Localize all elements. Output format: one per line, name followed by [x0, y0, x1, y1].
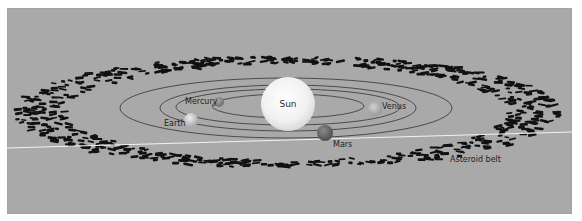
asteroid [119, 71, 126, 73]
asteroid [111, 69, 116, 72]
asteroid-belt-label: Asteroid belt [450, 155, 501, 164]
asteroid [508, 102, 512, 105]
asteroid [61, 80, 65, 83]
asteroid [15, 111, 23, 115]
asteroid [87, 140, 94, 143]
asteroid [409, 71, 415, 74]
asteroid [505, 87, 510, 89]
asteroid [131, 147, 135, 150]
asteroid [286, 165, 292, 167]
planet-mercury: Mercury [185, 97, 224, 107]
asteroid [328, 59, 333, 62]
asteroid [504, 136, 509, 138]
asteroid [456, 69, 461, 72]
asteroid [51, 82, 57, 84]
asteroid [430, 147, 439, 149]
asteroid [82, 137, 89, 140]
asteroid [28, 126, 36, 129]
asteroid [237, 62, 243, 65]
asteroid [509, 100, 516, 102]
asteroid [435, 74, 443, 77]
asteroid [57, 86, 66, 88]
asteroid [392, 59, 396, 62]
asteroid [34, 96, 39, 98]
asteroid [338, 158, 345, 160]
planet-earth: Earth [164, 113, 198, 128]
asteroid [546, 119, 554, 123]
asteroid [59, 88, 67, 91]
asteroid [506, 112, 513, 115]
asteroid [31, 122, 41, 125]
asteroid [306, 164, 313, 167]
solar-system-diagram: Sun Mercury Venus Earth Mars Asteroid be… [0, 0, 582, 221]
asteroid [484, 140, 492, 143]
planet-venus: Venus [368, 102, 406, 116]
asteroid [515, 113, 522, 116]
asteroid [508, 91, 513, 93]
asteroid [34, 111, 41, 114]
asteroid [229, 57, 235, 60]
asteroid [179, 61, 187, 64]
asteroid [235, 58, 244, 60]
asteroid [77, 139, 84, 142]
asteroid [60, 110, 69, 112]
venus-sphere [368, 102, 382, 116]
asteroid [64, 122, 73, 127]
asteroid [355, 57, 360, 60]
asteroid [14, 108, 22, 112]
asteroid [363, 59, 368, 62]
asteroid [253, 159, 262, 162]
asteroid [112, 81, 118, 84]
asteroid [439, 64, 449, 68]
asteroid [218, 58, 222, 60]
asteroid [27, 128, 36, 131]
asteroid [109, 152, 115, 155]
asteroid [39, 128, 47, 132]
asteroid [509, 137, 517, 141]
asteroid [86, 85, 96, 89]
mercury-label: Mercury [185, 97, 218, 106]
asteroid [510, 96, 514, 99]
asteroid [417, 152, 421, 155]
asteroid [46, 125, 52, 129]
asteroid [216, 165, 221, 168]
asteroid [120, 68, 129, 70]
asteroid [105, 79, 113, 82]
asteroid [475, 72, 485, 74]
asteroid [440, 152, 449, 155]
asteroid [49, 101, 58, 104]
asteroid [398, 154, 406, 157]
asteroid [164, 69, 172, 71]
asteroid [502, 142, 509, 145]
asteroid [415, 148, 423, 151]
asteroid [469, 141, 474, 144]
asteroid [349, 157, 356, 160]
asteroid [525, 85, 533, 87]
asteroid [336, 59, 346, 63]
asteroid [522, 105, 527, 108]
asteroid [23, 114, 31, 116]
asteroid [21, 119, 27, 121]
asteroid [308, 160, 315, 163]
asteroid [165, 155, 175, 159]
asteroid [218, 161, 223, 164]
asteroid [498, 97, 506, 100]
asteroid [223, 163, 230, 165]
asteroid [348, 161, 353, 164]
asteroid [54, 121, 63, 125]
asteroid [123, 148, 131, 151]
asteroid [267, 164, 274, 167]
asteroid [283, 60, 288, 62]
asteroid [55, 127, 60, 130]
asteroid [526, 93, 533, 96]
asteroid [115, 67, 119, 69]
asteroid [63, 94, 69, 96]
asteroid [387, 155, 392, 158]
asteroid [290, 161, 298, 164]
asteroid [398, 156, 403, 158]
asteroid [51, 96, 59, 98]
asteroid [215, 62, 220, 65]
earth-sphere [184, 113, 198, 127]
asteroid [494, 94, 500, 96]
asteroid [172, 64, 178, 66]
